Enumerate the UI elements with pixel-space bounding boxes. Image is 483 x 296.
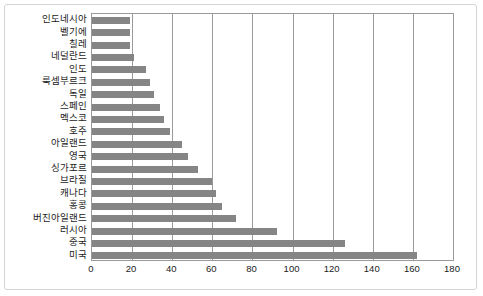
x-tick-label: 180: [444, 263, 460, 275]
bar: [92, 203, 222, 210]
bar: [92, 178, 212, 185]
bar-row: [92, 77, 453, 87]
category-label: 버진아일랜드: [33, 213, 87, 223]
bar: [92, 79, 150, 86]
category-label: 영국: [69, 151, 87, 161]
x-tick-label: 20: [126, 263, 137, 275]
category-label: 멕스코: [60, 113, 87, 123]
x-tick-label: 100: [284, 263, 300, 275]
category-label: 브라질: [60, 175, 87, 185]
bar: [92, 128, 170, 135]
x-tick-label: 60: [206, 263, 217, 275]
category-label: 벨기에: [60, 27, 87, 37]
plot-area: [91, 13, 454, 261]
bar-row: [92, 164, 453, 174]
category-label: 아일랜드: [51, 138, 87, 148]
chart-frame: 인도네시아벨기에칠레네덜란드인도룩셈부르크독일스페인멕스코호주아일랜드영국싱가포…: [4, 4, 477, 290]
bar-row: [92, 251, 453, 261]
category-label: 호주: [69, 126, 87, 136]
bar: [92, 240, 345, 247]
bar: [92, 42, 130, 49]
bar-row: [92, 176, 453, 186]
category-label: 미국: [69, 250, 87, 260]
x-tick-label: 40: [166, 263, 177, 275]
bar: [92, 141, 182, 148]
bar-row: [92, 114, 453, 124]
bar-series: [92, 14, 453, 260]
x-tick-label: 0: [88, 263, 93, 275]
bar: [92, 153, 188, 160]
bar: [92, 29, 130, 36]
x-tick-label: 120: [324, 263, 340, 275]
bar-row: [92, 40, 453, 50]
category-label: 칠레: [69, 39, 87, 49]
bar: [92, 252, 417, 259]
bar: [92, 215, 236, 222]
category-axis: 인도네시아벨기에칠레네덜란드인도룩셈부르크독일스페인멕스코호주아일랜드영국싱가포…: [5, 13, 87, 261]
bar: [92, 66, 146, 73]
category-label: 네덜란드: [51, 51, 87, 61]
category-label: 독일: [69, 89, 87, 99]
category-label: 인도네시아: [42, 14, 87, 24]
bar: [92, 17, 130, 24]
category-label: 러시아: [60, 225, 87, 235]
bar-row: [92, 139, 453, 149]
bar-row: [92, 102, 453, 112]
bar: [92, 190, 216, 197]
bar-row: [92, 15, 453, 25]
value-axis: 020406080100120140160180: [91, 263, 454, 279]
category-label: 룩셈부르크: [42, 76, 87, 86]
bar-row: [92, 65, 453, 75]
bar: [92, 91, 154, 98]
x-tick-label: 80: [246, 263, 257, 275]
bar-row: [92, 127, 453, 137]
bar: [92, 116, 164, 123]
bar-row: [92, 28, 453, 38]
x-tick-label: 160: [404, 263, 420, 275]
category-label: 인도: [69, 64, 87, 74]
bar: [92, 166, 198, 173]
bar-row: [92, 238, 453, 248]
bar-row: [92, 52, 453, 62]
category-label: 스페인: [60, 101, 87, 111]
bar-row: [92, 90, 453, 100]
bar-row: [92, 152, 453, 162]
bar-row: [92, 214, 453, 224]
category-label: 싱가포르: [51, 163, 87, 173]
category-label: 캐나다: [60, 188, 87, 198]
bar: [92, 228, 277, 235]
x-tick-label: 140: [364, 263, 380, 275]
category-label: 중국: [69, 237, 87, 247]
category-label: 홍콩: [69, 200, 87, 210]
bar: [92, 54, 134, 61]
bar: [92, 104, 160, 111]
bar-row: [92, 201, 453, 211]
bar-row: [92, 189, 453, 199]
bar-row: [92, 226, 453, 236]
